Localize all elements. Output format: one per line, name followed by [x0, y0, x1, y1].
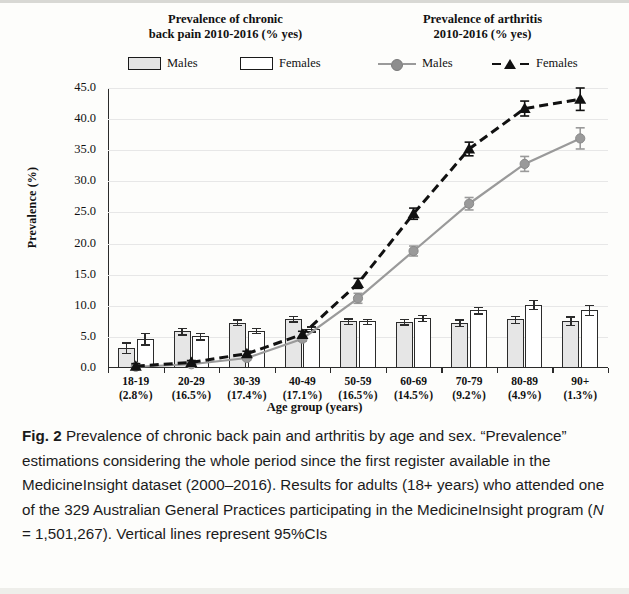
panel-title-back-pain-line1: Prevalence of chronic: [108, 12, 343, 27]
caption-n-symbol: N: [593, 501, 604, 518]
x-tickmark: [219, 368, 220, 373]
x-axis-title: Age group (years): [0, 400, 629, 415]
bottom-band: [0, 588, 629, 594]
line-gray-circle-icon: [378, 58, 416, 70]
plot-area: [108, 88, 608, 368]
x-category-label: 90+(1.3%): [545, 375, 615, 402]
x-tickmark: [552, 368, 553, 373]
panel-title-arthritis-line2: 2010-2016 (% yes): [375, 27, 590, 42]
y-tick-label: 20.0: [50, 236, 96, 251]
line-females: [136, 99, 580, 366]
x-tickmark: [386, 368, 387, 373]
y-tick-label: 0.0: [50, 360, 96, 375]
x-tickmark: [608, 368, 609, 373]
x-tickmark: [164, 368, 165, 373]
y-tick-label: 45.0: [50, 80, 96, 95]
legend-label: Males: [167, 56, 198, 71]
legend-label: Females: [279, 56, 321, 71]
y-tick-label: 5.0: [50, 329, 96, 344]
line-black-dashed-triangle-icon: [492, 58, 530, 70]
x-tickmark: [108, 368, 109, 373]
marker-circle-males: [576, 134, 585, 143]
legend-item-backpain-females: Females: [240, 56, 321, 71]
legend-item-backpain-males: Males: [128, 56, 198, 71]
x-category-range: 90+: [545, 375, 615, 389]
bar-swatch-gray-icon: [128, 57, 161, 70]
marker-circle-males: [353, 294, 362, 303]
panel-title-back-pain-line2: back pain 2010-2016 (% yes): [108, 27, 343, 42]
caption-tail: Vertical lines represent 95%CIs: [112, 525, 327, 542]
chart-legend: Males Females Males Females: [0, 56, 629, 78]
marker-circle-males: [409, 246, 418, 255]
y-tick-label: 30.0: [50, 173, 96, 188]
panel-titles: Prevalence of chronic back pain 2010-201…: [0, 8, 629, 52]
x-tickmark: [441, 368, 442, 373]
panel-title-back-pain: Prevalence of chronic back pain 2010-201…: [108, 12, 343, 42]
caption-text: Prevalence of chronic back pain and arth…: [22, 427, 604, 518]
legend-item-arthritis-males: Males: [378, 56, 453, 71]
x-tickmark: [497, 368, 498, 373]
y-tick-label: 35.0: [50, 142, 96, 157]
legend-item-arthritis-females: Females: [492, 56, 578, 71]
legend-label: Males: [422, 56, 453, 71]
y-tick-label: 40.0: [50, 111, 96, 126]
figure-caption: Fig. 2 Prevalence of chronic back pain a…: [22, 424, 614, 547]
marker-triangle-females: [574, 93, 586, 104]
line-males: [136, 138, 580, 366]
panel-title-arthritis: Prevalence of arthritis 2010-2016 (% yes…: [375, 12, 590, 42]
bar-swatch-white-icon: [240, 57, 273, 70]
y-tick-label: 10.0: [50, 298, 96, 313]
marker-circle-males: [520, 159, 529, 168]
x-tickmark: [330, 368, 331, 373]
figure-2: Prevalence of chronic back pain 2010-201…: [0, 0, 629, 594]
y-tick-label: 25.0: [50, 204, 96, 219]
legend-label: Females: [536, 56, 578, 71]
marker-circle-males: [465, 199, 474, 208]
caption-n-value: = 1,501,267).: [22, 525, 112, 542]
panel-title-arthritis-line1: Prevalence of arthritis: [375, 12, 590, 27]
y-tick-label: 15.0: [50, 267, 96, 282]
line-series-layer: [108, 88, 608, 368]
caption-label: Fig. 2: [22, 427, 62, 444]
x-tickmark: [275, 368, 276, 373]
y-axis-title: Prevalence (%): [25, 138, 40, 278]
top-divider: [0, 0, 629, 3]
